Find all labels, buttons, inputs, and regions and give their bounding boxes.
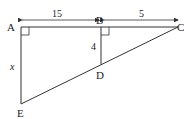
segment-ec <box>21 27 178 104</box>
geometry-diagram: A B C D E 15 5 4 x <box>0 0 184 119</box>
measure-ab: 15 <box>52 8 62 19</box>
label-b: B <box>96 14 103 26</box>
measure-bd: 4 <box>91 41 96 52</box>
label-e: E <box>17 107 24 119</box>
triangle-figure <box>21 27 178 104</box>
right-angle-b-icon <box>101 27 109 35</box>
label-d: D <box>96 69 104 81</box>
label-c: C <box>177 21 184 33</box>
right-angle-a-icon <box>21 27 29 35</box>
measure-bc: 5 <box>139 8 144 19</box>
measure-ae: x <box>9 61 15 72</box>
label-a: A <box>7 21 15 33</box>
